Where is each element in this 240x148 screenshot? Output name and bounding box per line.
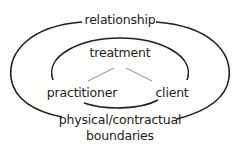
client-label: client [155, 86, 188, 100]
practitioner-label: practitioner [47, 86, 117, 100]
diagram-canvas: relationship treatment practitioner clie… [0, 0, 240, 148]
connector-treatment-practitioner [88, 68, 114, 81]
boundaries-label-line1: physical/contractual [59, 113, 181, 127]
inner-ellipse-bottom [84, 100, 158, 108]
outer-ellipse [11, 22, 82, 117]
outer-ellipse-right [156, 22, 229, 119]
treatment-label: treatment [90, 46, 151, 60]
relationship-label: relationship [84, 13, 155, 27]
connector-treatment-client [126, 68, 152, 81]
boundaries-label-line2: boundaries [86, 129, 154, 143]
